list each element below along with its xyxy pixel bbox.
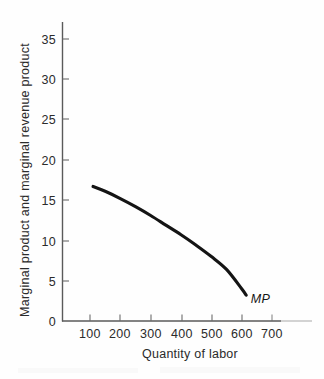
mp-curve-label: MP bbox=[251, 292, 271, 306]
x-tick-label-400: 400 bbox=[171, 327, 193, 341]
mp-curve bbox=[93, 186, 246, 295]
y-axis-title: Marginal product and marginal revenue pr… bbox=[18, 43, 32, 317]
x-tick-label-700: 700 bbox=[261, 327, 283, 341]
x-axis-title: Quantity of labor bbox=[142, 347, 238, 361]
y-tick-label-15: 15 bbox=[41, 194, 56, 208]
y-tick-label-20: 20 bbox=[41, 154, 56, 168]
y-tick-label-35: 35 bbox=[41, 33, 56, 47]
y-tick-label-10: 10 bbox=[41, 235, 56, 249]
x-tick-label-300: 300 bbox=[140, 327, 162, 341]
x-tick-label-500: 500 bbox=[201, 327, 223, 341]
y-tick-label-0: 0 bbox=[49, 315, 56, 329]
y-tick-marks bbox=[63, 39, 70, 281]
x-tick-label-600: 600 bbox=[231, 327, 253, 341]
marginal-product-plot: 35 30 25 20 15 10 5 0 100 200 300 400 50… bbox=[0, 0, 324, 379]
y-tick-label-5: 5 bbox=[49, 275, 56, 289]
x-tick-marks bbox=[90, 315, 272, 322]
y-tick-label-25: 25 bbox=[41, 113, 56, 127]
x-tick-label-100: 100 bbox=[79, 327, 101, 341]
x-tick-label-200: 200 bbox=[109, 327, 131, 341]
chart-figure: 35 30 25 20 15 10 5 0 100 200 300 400 50… bbox=[0, 0, 324, 379]
y-tick-label-30: 30 bbox=[41, 73, 56, 87]
